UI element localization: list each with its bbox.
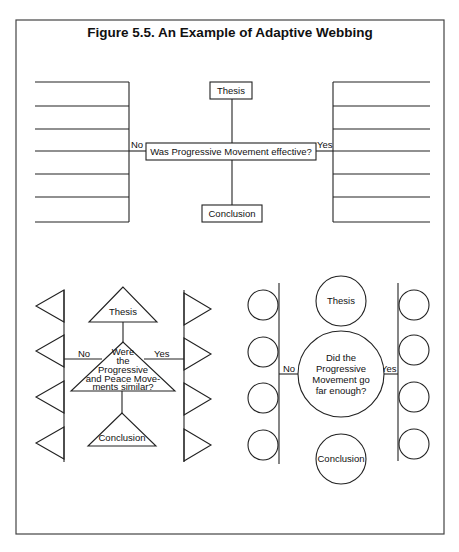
yes-label: Yes — [154, 348, 170, 359]
conclusion-text: Conclusion — [209, 208, 256, 219]
left-bracket — [35, 82, 129, 222]
triangle-left — [36, 335, 64, 367]
triangle-right — [184, 338, 211, 370]
question-line: far enough? — [316, 385, 367, 396]
triangle-right — [184, 293, 211, 325]
thesis-text: Thesis — [217, 85, 245, 96]
circle-left — [248, 337, 278, 367]
no-label: No — [283, 363, 295, 374]
triangle-web: No Yes Thesis Were the Progressive and P… — [36, 287, 211, 462]
rectangle-web: No Yes Thesis Was Progressive Movement e… — [35, 82, 430, 222]
circle-web: No Yes Thesis Did the Progressive Moveme… — [248, 276, 429, 484]
question-line: ments similar? — [92, 381, 153, 392]
circle-right — [399, 382, 429, 412]
no-label: No — [78, 348, 90, 359]
circle-right — [399, 290, 429, 320]
circle-left — [248, 290, 278, 320]
question-text: Was Progressive Movement effective? — [150, 146, 312, 157]
circle-right — [399, 335, 429, 365]
triangle-right — [184, 429, 211, 461]
triangle-left — [36, 427, 64, 459]
triangle-left — [36, 290, 64, 322]
yes-label: Yes — [317, 139, 333, 150]
question-line: Did the — [326, 352, 356, 363]
thesis-text: Thesis — [109, 306, 137, 317]
question-line: Progressive — [316, 363, 366, 374]
conclusion-text: Conclusion — [318, 453, 365, 464]
no-label: No — [131, 139, 143, 150]
thesis-text: Thesis — [327, 295, 355, 306]
conclusion-text: Conclusion — [99, 432, 146, 443]
question-line: Movement go — [312, 374, 370, 385]
circle-right — [399, 429, 429, 459]
circle-left — [248, 430, 278, 460]
figure-canvas: Figure 5.5. An Example of Adaptive Webbi… — [0, 0, 459, 552]
right-bracket — [333, 82, 430, 222]
figure-title: Figure 5.5. An Example of Adaptive Webbi… — [87, 25, 372, 40]
triangle-right — [184, 383, 211, 415]
circle-left — [248, 383, 278, 413]
triangle-left — [36, 381, 64, 413]
